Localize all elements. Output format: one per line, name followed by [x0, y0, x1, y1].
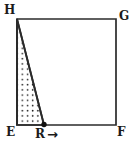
vertex-label-g: G — [119, 10, 129, 22]
vertex-label-e: E — [6, 126, 15, 138]
geometry-figure: H G F E R → — [0, 0, 133, 146]
figure-canvas — [0, 0, 133, 146]
vertex-label-f: F — [117, 126, 126, 138]
rightward-arrow-icon: → — [47, 128, 58, 141]
vertex-label-h: H — [4, 4, 15, 16]
point-label-r: R — [35, 128, 45, 140]
